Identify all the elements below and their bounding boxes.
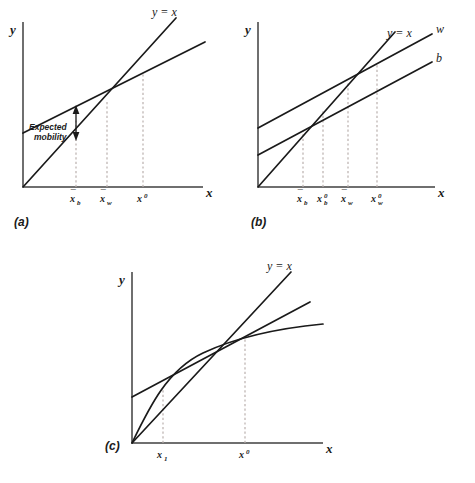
- y-axis-label-c: y: [117, 272, 125, 287]
- panel-b-plot: y x y = x w b x ¯ b x 0 b x ¯ w: [235, 0, 475, 240]
- panel-c-plot: y x y = x x 1 x 0 (c): [105, 240, 365, 483]
- regression-line-a: [23, 42, 205, 133]
- tick-subscript: w: [348, 199, 353, 207]
- tick-subscript: 1: [164, 455, 168, 463]
- flat-line-c: [132, 302, 310, 397]
- identity-line-b: [258, 32, 395, 187]
- panel-caption-b: (b): [251, 215, 266, 229]
- tick-subscript: b: [324, 199, 328, 207]
- tick-label-xbar-w-b: x ¯ w: [340, 188, 353, 207]
- tick-label-x1-c: x 1: [156, 449, 168, 463]
- panel-caption-c: (c): [105, 439, 120, 453]
- tick-base: x: [316, 193, 322, 204]
- tick-subscript: w: [378, 199, 383, 207]
- tick-subscript: b: [304, 199, 308, 207]
- identity-line-label-b: y = x: [386, 26, 412, 40]
- tick-base: x: [370, 193, 376, 204]
- tick-overbar: ¯: [70, 188, 76, 199]
- concave-curve-c: [132, 324, 323, 443]
- tick-subscript: w: [107, 199, 112, 207]
- tick-label-xbar-b-a: x ¯ b: [69, 188, 81, 207]
- arrow-head-down-a: [73, 132, 80, 141]
- x-axis-label-c: x: [325, 441, 333, 456]
- tick-label-x0-b-b: x 0 b: [316, 192, 328, 207]
- y-axis-label-a: y: [8, 22, 16, 37]
- expected-mobility-label-line2: mobility: [34, 132, 68, 142]
- within-line-label-b: w: [436, 22, 444, 36]
- tick-base: x: [136, 193, 142, 204]
- between-line-b: [258, 62, 432, 155]
- tick-label-x0-a: x 0: [136, 192, 148, 204]
- tick-subscript: b: [77, 199, 81, 207]
- panel-a: y x y = x Expected mobility x ¯ b x ¯ w …: [0, 0, 240, 240]
- within-line-b: [258, 34, 432, 128]
- x-axis-label-a: x: [205, 185, 213, 200]
- tick-overbar: ¯: [100, 188, 106, 199]
- panel-c: y x y = x x 1 x 0 (c): [105, 240, 365, 483]
- expected-mobility-label-line1: Expected: [29, 122, 68, 132]
- tick-overbar: ¯: [341, 188, 347, 199]
- tick-base: x: [156, 449, 162, 460]
- arrow-head-up-a: [73, 105, 80, 114]
- tick-base: x: [238, 449, 244, 460]
- x-axis-label-b: x: [437, 185, 445, 200]
- tick-overbar: ¯: [297, 188, 303, 199]
- tick-label-xbar-w-a: x ¯ w: [99, 188, 112, 207]
- panel-a-plot: y x y = x Expected mobility x ¯ b x ¯ w …: [0, 0, 240, 240]
- tick-label-x0-w-b: x 0 w: [370, 192, 383, 207]
- identity-line-label-c: y = x: [266, 259, 292, 273]
- tick-superscript: 0: [246, 448, 250, 456]
- panel-caption-a: (a): [14, 215, 29, 229]
- tick-superscript: 0: [144, 192, 148, 200]
- y-axis-label-b: y: [243, 22, 251, 37]
- identity-line-a: [23, 18, 176, 187]
- identity-line-c: [132, 272, 291, 443]
- tick-label-x0-c: x 0: [238, 448, 250, 460]
- tick-label-xbar-b-b: x ¯ b: [296, 188, 308, 207]
- between-line-label-b: b: [436, 51, 442, 65]
- identity-line-label-a: y = x: [151, 5, 177, 19]
- panel-b: y x y = x w b x ¯ b x 0 b x ¯ w: [235, 0, 475, 240]
